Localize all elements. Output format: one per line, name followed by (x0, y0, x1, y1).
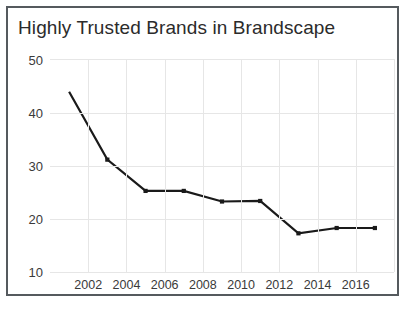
gridline-vertical (279, 60, 280, 272)
data-point-marker (143, 189, 147, 193)
gridline-vertical (241, 60, 242, 272)
data-point-marker (373, 226, 377, 230)
x-axis-tick-label: 2014 (304, 278, 332, 292)
x-axis-tick-label: 2002 (74, 278, 102, 292)
gridline-vertical (88, 60, 89, 272)
gridline-horizontal (50, 272, 394, 273)
y-axis-tick-label: 30 (29, 159, 43, 174)
x-axis-tick-label: 2006 (151, 278, 179, 292)
gridline-vertical (165, 60, 166, 272)
plot-area: 1020304050200220042006200820102012201420… (50, 59, 395, 272)
x-axis-tick-label: 2010 (227, 278, 255, 292)
y-axis-tick-label: 10 (29, 265, 43, 280)
data-point-marker (182, 189, 186, 193)
gridline-vertical (318, 60, 319, 272)
gridline-vertical (126, 60, 127, 272)
plot-wrapper: 1020304050200220042006200820102012201420… (8, 8, 401, 298)
chart-card: Highly Trusted Brands in Brandscape 1020… (6, 6, 399, 296)
gridline-vertical (356, 60, 357, 272)
gridline-horizontal (50, 219, 394, 220)
x-axis-tick-label: 2012 (265, 278, 293, 292)
y-axis-tick-label: 50 (29, 53, 43, 68)
data-point-marker (335, 226, 339, 230)
gridline-horizontal (50, 166, 394, 167)
x-axis-tick-label: 2016 (342, 278, 370, 292)
data-point-marker (105, 158, 109, 162)
gridline-horizontal (50, 113, 394, 114)
x-axis-tick-label: 2004 (113, 278, 141, 292)
data-point-marker (296, 231, 300, 235)
data-point-marker (220, 199, 224, 203)
y-axis-tick-label: 40 (29, 106, 43, 121)
y-axis-tick-label: 20 (29, 212, 43, 227)
x-axis-tick-label: 2008 (189, 278, 217, 292)
data-point-marker (258, 199, 262, 203)
gridline-vertical (203, 60, 204, 272)
